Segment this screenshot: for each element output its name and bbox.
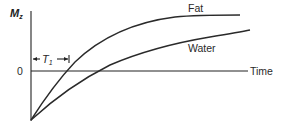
- mz-recovery-diagram: Mz 0 Time T1 Fat Water: [0, 0, 287, 128]
- water-curve-label: Water: [188, 42, 216, 54]
- t1-label: T1: [42, 53, 53, 66]
- t1-label-sub: 1: [49, 59, 53, 66]
- t1-interval-marker: T1: [33, 53, 69, 66]
- fat-curve-label: Fat: [188, 2, 203, 14]
- fat-curve: [31, 15, 240, 120]
- y-axis-label: Mz: [10, 7, 23, 20]
- zero-label: 0: [17, 65, 23, 77]
- x-axis-label: Time: [250, 65, 273, 77]
- y-axis-label-sub: z: [18, 13, 23, 20]
